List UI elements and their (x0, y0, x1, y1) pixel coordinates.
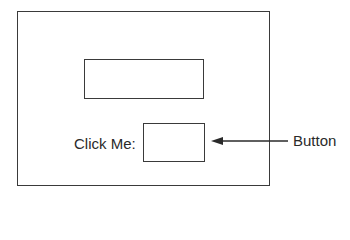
click-me-button[interactable] (143, 123, 205, 162)
arrow-left-icon (208, 134, 292, 148)
click-me-label: Click Me: (74, 135, 136, 153)
button-callout-label: Button (293, 132, 336, 150)
text-field[interactable] (84, 59, 204, 99)
